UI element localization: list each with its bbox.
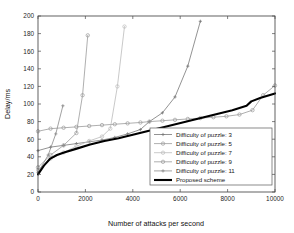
- legend-label: Difficulty of puzzle: 5: [176, 140, 232, 147]
- legend-label: Proposed scheme: [176, 176, 226, 183]
- x-tick-label: 4000: [126, 195, 141, 202]
- legend-label: Difficulty of puzzle: 7: [176, 149, 232, 156]
- y-tick-label: 80: [27, 118, 35, 125]
- legend-label: Difficulty of puzzle: 3: [176, 131, 232, 138]
- x-tick-label: 2000: [78, 195, 93, 202]
- x-tick-label: 6000: [173, 195, 188, 202]
- y-tick-label: 20: [27, 171, 35, 178]
- y-tick-label: 40: [27, 153, 35, 160]
- delay-vs-attacks-line-chart: 0200040006000800010000020406080100120140…: [0, 0, 294, 233]
- x-tick-label: 8000: [220, 195, 235, 202]
- y-tick-label: 200: [23, 12, 34, 19]
- y-tick-label: 140: [23, 65, 34, 72]
- y-tick-label: 120: [23, 83, 34, 90]
- legend-layer: Difficulty of puzzle: 3Difficulty of puz…: [150, 128, 272, 185]
- legend-label: Difficulty of puzzle: 9: [176, 158, 232, 165]
- x-tick-label: 0: [36, 195, 40, 202]
- x-axis-title: Number of attacks per second: [108, 219, 204, 228]
- y-tick-label: 180: [23, 30, 34, 37]
- y-tick-label: 160: [23, 48, 34, 55]
- chart-figure: 0200040006000800010000020406080100120140…: [0, 0, 294, 233]
- y-tick-label: 60: [27, 136, 35, 143]
- plot-background: [0, 0, 294, 233]
- y-tick-label: 0: [30, 188, 34, 195]
- x-tick-label: 10000: [266, 195, 284, 202]
- y-tick-label: 100: [23, 100, 34, 107]
- legend-label: Difficulty of puzzle: 11: [176, 167, 235, 174]
- y-axis-title: Delay/ms: [3, 89, 12, 119]
